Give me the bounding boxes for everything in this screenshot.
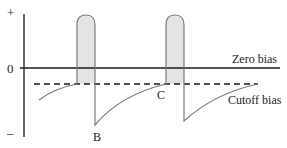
conduction-pulse-1 xyxy=(77,15,95,84)
axis-label-zero: 0 xyxy=(7,61,14,76)
point-label-b: B xyxy=(93,130,101,144)
axis-label-minus: – xyxy=(6,125,14,140)
conduction-pulse-2 xyxy=(166,15,184,84)
cutoff-bias-label: Cutoff bias xyxy=(228,93,282,107)
grid-voltage-waveform xyxy=(39,15,258,125)
axis-label-plus: + xyxy=(7,5,14,20)
bias-waveform-diagram: + 0 – Zero bias Cutoff bias B C xyxy=(0,0,287,148)
point-label-c: C xyxy=(157,88,165,102)
zero-bias-label: Zero bias xyxy=(232,52,277,66)
